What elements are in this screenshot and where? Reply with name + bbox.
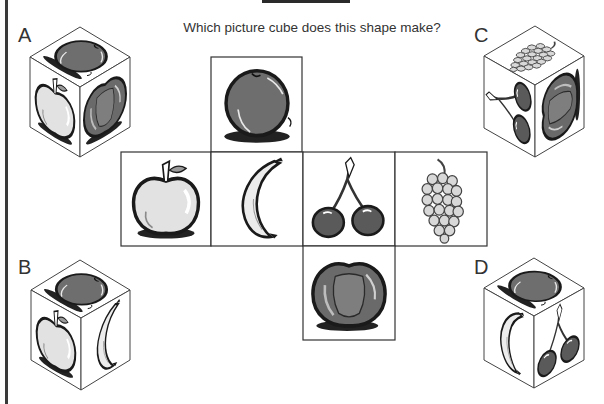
cube-option-a[interactable] <box>30 27 130 157</box>
cube-option-b[interactable] <box>31 260 130 390</box>
cube-option-d[interactable] <box>484 258 584 388</box>
cube-option-c[interactable] <box>484 26 584 157</box>
